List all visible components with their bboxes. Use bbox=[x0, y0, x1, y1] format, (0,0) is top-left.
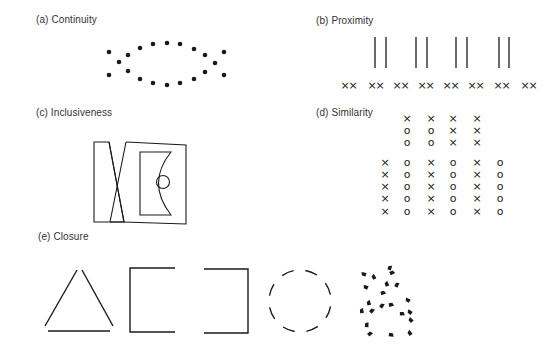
closure-dashed-circle bbox=[264, 265, 336, 337]
closure-blob bbox=[364, 322, 369, 328]
continuity-dot bbox=[117, 60, 122, 65]
inner-concave-shape bbox=[140, 152, 171, 215]
cross-line-2 bbox=[110, 142, 126, 222]
similarity-x-mark: × bbox=[380, 205, 389, 218]
closure-blob bbox=[388, 269, 395, 276]
closure-blob bbox=[407, 309, 413, 315]
continuity-dot bbox=[138, 46, 143, 51]
continuity-dot bbox=[165, 83, 170, 88]
continuity-dot bbox=[203, 70, 208, 75]
continuity-dot bbox=[178, 81, 183, 86]
similarity-x-mark: × bbox=[380, 192, 389, 205]
proximity-figure: ×××××××××××××××× bbox=[340, 37, 537, 92]
similarity-x-mark: × bbox=[426, 192, 435, 205]
closure-blob bbox=[369, 308, 375, 315]
continuity-dot bbox=[107, 50, 112, 55]
left-bowtie-shape bbox=[94, 142, 124, 222]
gestalt-figures: ×××××××××××××××× ××××oo××oo×××o×o×o×o×o×… bbox=[0, 0, 556, 349]
similarity-o-mark: o bbox=[497, 205, 504, 218]
closure-blob bbox=[408, 317, 415, 323]
closure-blob bbox=[362, 272, 367, 277]
closure-square-open-right bbox=[130, 268, 175, 332]
similarity-o-mark: o bbox=[450, 205, 457, 218]
similarity-x-mark: × bbox=[472, 192, 481, 205]
inclusiveness-figure bbox=[94, 142, 186, 224]
continuity-dot bbox=[107, 73, 112, 78]
similarity-figure: ××××oo××oo×××o×o×o×o×o×o×o×o×o×o×o×o×o×o… bbox=[380, 112, 503, 218]
closure-blob bbox=[363, 285, 369, 290]
closure-blob bbox=[379, 303, 385, 309]
continuity-dot bbox=[178, 42, 183, 47]
closure-blob bbox=[380, 290, 387, 296]
closure-blob bbox=[406, 330, 413, 337]
similarity-x-mark: × bbox=[448, 136, 457, 149]
proximity-x-mark: × bbox=[450, 79, 459, 92]
similarity-o-mark: o bbox=[428, 136, 435, 149]
continuity-dot bbox=[165, 41, 170, 46]
continuity-dot bbox=[192, 47, 197, 52]
continuity-dot bbox=[138, 77, 143, 82]
closure-blob bbox=[384, 281, 391, 288]
continuity-dot bbox=[203, 53, 208, 58]
similarity-o-mark: o bbox=[497, 192, 504, 205]
closure-blob bbox=[394, 282, 399, 288]
closure-blob bbox=[388, 332, 394, 337]
proximity-x-mark: × bbox=[501, 79, 510, 92]
similarity-x-mark: × bbox=[472, 136, 481, 149]
continuity-dot bbox=[126, 69, 131, 74]
continuity-dot bbox=[222, 73, 227, 78]
continuity-dot bbox=[222, 50, 227, 55]
closure-figure bbox=[45, 265, 336, 337]
closure-blob bbox=[359, 308, 365, 314]
continuity-dot bbox=[151, 81, 156, 86]
closure-triangle bbox=[45, 270, 113, 331]
continuity-dot bbox=[151, 42, 156, 47]
closure-blob bbox=[367, 331, 374, 338]
proximity-x-mark: × bbox=[475, 79, 484, 92]
proximity-x-mark: × bbox=[348, 79, 357, 92]
proximity-x-mark: × bbox=[400, 79, 409, 92]
proximity-x-mark: × bbox=[528, 79, 537, 92]
cross-line-1 bbox=[109, 142, 124, 222]
similarity-o-mark: o bbox=[404, 192, 411, 205]
closure-blob bbox=[370, 274, 377, 281]
similarity-o-mark: o bbox=[404, 205, 411, 218]
proximity-x-mark: × bbox=[425, 79, 434, 92]
closure-blob-figure bbox=[359, 265, 414, 337]
closure-blob bbox=[366, 300, 372, 306]
outer-box-shape bbox=[110, 142, 186, 224]
continuity-dot bbox=[126, 53, 131, 58]
similarity-x-mark: × bbox=[426, 205, 435, 218]
closure-blob bbox=[387, 265, 392, 270]
closure-blob bbox=[399, 311, 405, 317]
closure-blob bbox=[388, 302, 394, 308]
similarity-o-mark: o bbox=[404, 136, 411, 149]
similarity-o-mark: o bbox=[450, 192, 457, 205]
continuity-dot bbox=[192, 77, 197, 82]
closure-square-open-left bbox=[204, 269, 248, 333]
continuity-figure bbox=[107, 41, 227, 88]
closure-blob bbox=[405, 297, 411, 303]
proximity-x-mark: × bbox=[375, 79, 384, 92]
continuity-dot bbox=[213, 61, 218, 66]
similarity-x-mark: × bbox=[472, 205, 481, 218]
